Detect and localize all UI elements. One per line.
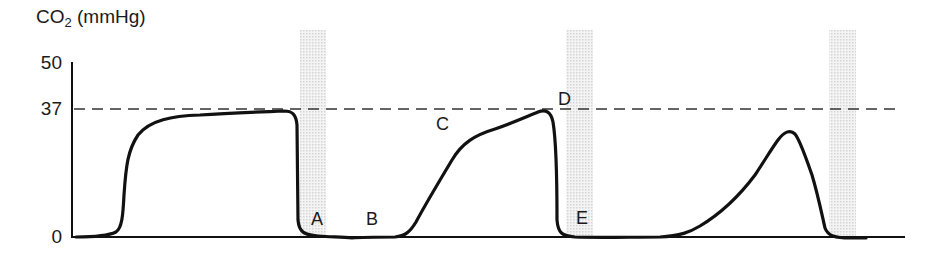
shaded-band-3 (829, 30, 856, 238)
point-label-a: A (311, 209, 323, 230)
shaded-band-2 (566, 30, 593, 238)
co2-waveform (76, 111, 866, 238)
point-label-c: C (436, 114, 449, 135)
point-label-b: B (366, 209, 378, 230)
capnogram-diagram: CO2 (mmHg) 50 37 0 A B C D E (0, 0, 936, 259)
capnogram-plot (0, 0, 936, 259)
point-label-e: E (576, 208, 588, 229)
point-label-d: D (558, 89, 571, 110)
shaded-band-1 (300, 30, 326, 238)
